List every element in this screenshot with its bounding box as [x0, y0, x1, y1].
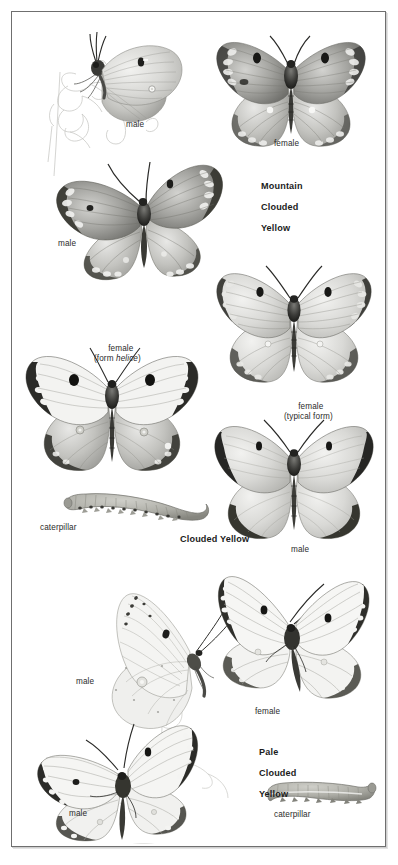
label-line-form-pre: (form [94, 354, 116, 363]
head [118, 772, 127, 780]
abdomen [110, 406, 115, 462]
caterpillar-body [66, 494, 209, 521]
species-name-line-1: Clouded Yellow [180, 534, 249, 544]
field-guide-plate: male female male Mountain Clouded Yellow… [0, 0, 398, 865]
forewing-right-discal-spot [326, 441, 332, 450]
forewing-right-discal-spot [325, 613, 332, 622]
hindwing-right-spot [161, 251, 167, 257]
forewing-underside [102, 46, 182, 106]
hindwing-ocellus-core [140, 680, 144, 684]
plate-canvas: male female male Mountain Clouded Yellow… [12, 12, 383, 844]
label-line-form-italic: helice [116, 354, 138, 363]
forewing-left-discal-spot [87, 205, 94, 211]
hindwing-spot-core [151, 88, 153, 90]
caterpillar-clouded-yellow [64, 494, 209, 521]
species-name-line-1: Mountain [261, 181, 303, 191]
butterfly-pcy-female [218, 577, 369, 699]
figure-cy-male-upperside [215, 420, 373, 539]
species-name-clouded-yellow: Clouded Yellow [164, 524, 249, 555]
forewing-right-discal-spot [321, 53, 329, 64]
figure-mcy-male-underside [48, 32, 182, 176]
forewing-right-discal-spot [145, 747, 151, 756]
figure-mcy-female-upperside [217, 36, 365, 146]
label-line-female: female [108, 344, 133, 353]
forewing-right-discal-spot [324, 287, 331, 297]
head [287, 624, 296, 632]
label-mcy-female: female [274, 139, 299, 149]
forewing-left-lower-spot [240, 79, 249, 85]
forewing-left-discal-spot [261, 605, 268, 614]
hindwing-left-spot [267, 107, 273, 113]
label-cy-male: male [291, 545, 309, 555]
hindwing-right-spot [321, 659, 327, 665]
head [139, 198, 147, 206]
hindwing-right-ocellus-core [142, 430, 145, 433]
label-cy-female-helice: female(form helice) [94, 335, 141, 373]
forewing-left-discal-spot [73, 779, 80, 785]
hindwing-left-ocellus-core [78, 428, 81, 431]
head [196, 650, 203, 656]
forewing-discal-spot [138, 57, 144, 66]
hindwing-left-spot [255, 649, 261, 655]
legs [74, 74, 100, 98]
forewing-left [218, 577, 288, 655]
abdomen [196, 668, 205, 696]
forewing-left-discal-spot [256, 441, 262, 450]
butterfly-cy-male [215, 420, 373, 539]
species-name-mountain-clouded-yellow: Mountain Clouded Yellow [245, 171, 303, 244]
butterfly-pcy-male-upperside [38, 724, 198, 841]
forewing-right-discal-spot [145, 374, 155, 386]
hindwing-right-spot [151, 809, 156, 814]
label-pcy-female: female [255, 707, 280, 717]
species-name-line-1: Pale [259, 747, 278, 757]
butterfly-mcy-female [217, 36, 365, 146]
hindwing-right-spot [309, 107, 315, 113]
head [290, 449, 298, 457]
label-line-typical-form: (typical form) [284, 412, 333, 421]
hindwing-right-extra-spot [165, 443, 171, 449]
species-name-line-2: Clouded [259, 768, 296, 778]
label-line-female: female [298, 402, 323, 411]
head [287, 60, 296, 68]
abdomen [292, 320, 297, 372]
label-mcy-male-underside: male [126, 120, 144, 130]
butterfly-mcy-male-underside [74, 32, 182, 122]
abdomen [119, 794, 125, 840]
hindwing-left-spot [265, 341, 271, 347]
head [290, 295, 298, 303]
forewing-left-discal-spot [256, 287, 263, 297]
label-line-form-post: ) [138, 354, 141, 363]
hindwing-right-spot [317, 341, 323, 347]
butterfly-cy-female-typical [217, 266, 371, 382]
butterfly-pcy-male-underside [112, 594, 230, 729]
figure-cy-caterpillar [64, 494, 209, 521]
label-cy-female-typical: female(typical form) [284, 393, 333, 431]
figure-pcy-female-upperside [218, 577, 369, 699]
figure-pcy-male-upperside [38, 724, 207, 844]
label-mcy-male-upperside: male [58, 239, 76, 249]
caterpillar-head [368, 783, 376, 793]
figure-cy-female-typical [217, 266, 371, 382]
figure-mcy-male-upperside [57, 162, 223, 280]
species-name-line-2: Clouded [261, 202, 298, 212]
hindwing-left-spot [123, 257, 129, 263]
spot-highlight [143, 59, 148, 61]
label-pcy-male-underside: male [76, 677, 94, 687]
caterpillar-head [64, 498, 72, 508]
species-name-line-3: Yellow [261, 223, 290, 233]
label-cy-caterpillar: caterpillar [40, 523, 77, 533]
hindwing-left-spot [97, 819, 103, 825]
label-pcy-male-upperside: male [69, 809, 87, 819]
species-name-pale-clouded-yellow: Pale Clouded Yellow [243, 737, 296, 810]
forewing-left-discal-spot [69, 374, 79, 386]
antennae [90, 32, 106, 62]
species-name-line-3: Yellow [259, 789, 288, 799]
forewing-right-discal-spot [167, 180, 173, 189]
abdomen [292, 474, 297, 530]
head [108, 380, 117, 388]
forewing-left-discal-spot [253, 53, 261, 64]
eye [93, 62, 99, 68]
butterfly-mcy-male-upperside [57, 162, 223, 280]
abdomen [289, 86, 294, 134]
label-pcy-caterpillar: caterpillar [274, 810, 311, 820]
